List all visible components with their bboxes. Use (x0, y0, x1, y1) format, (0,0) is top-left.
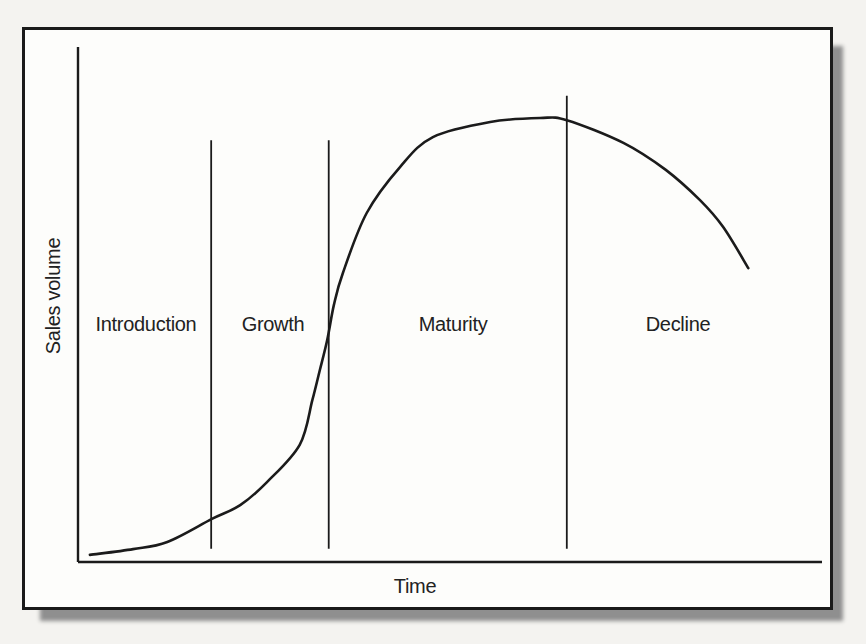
phase-label-decline: Decline (646, 313, 711, 335)
product-life-cycle-chart: Introduction Growth Maturity Decline Tim… (25, 30, 830, 607)
sales-volume-curve (90, 117, 748, 554)
phase-label-maturity: Maturity (419, 313, 488, 335)
phase-label-introduction: Introduction (96, 313, 197, 335)
y-axis-label: Sales volume (42, 238, 64, 355)
figure-frame: Introduction Growth Maturity Decline Tim… (22, 27, 833, 610)
x-axis-label: Time (394, 575, 437, 597)
phase-label-growth: Growth (242, 313, 305, 335)
